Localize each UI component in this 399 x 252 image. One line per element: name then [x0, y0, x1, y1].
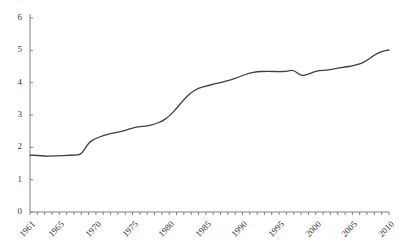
y-tick-label: 1 [6, 174, 22, 184]
y-tick-label: 6 [6, 12, 22, 22]
y-tick-label: 2 [6, 141, 22, 151]
plot-svg [0, 0, 399, 252]
y-tick-label: 3 [6, 109, 22, 119]
plot-area [0, 0, 399, 252]
y-tick-label: 4 [6, 77, 22, 87]
y-tick-label: 0 [6, 206, 22, 216]
y-tick-label: 5 [6, 44, 22, 54]
data-line-series-1 [30, 50, 389, 156]
line-chart: 0123456196119651970197519801985199019952… [0, 0, 399, 252]
